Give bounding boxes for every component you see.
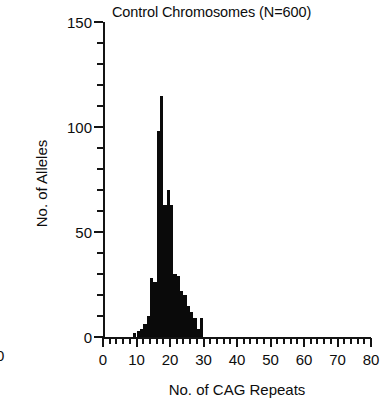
x-axis-minor-tick [176,338,178,344]
x-axis-tick-label: 50 [262,351,279,368]
neighbor-panel-tick-label: 0 [0,347,4,364]
x-axis-minor-tick [156,338,158,344]
x-axis-minor-tick [149,338,151,344]
x-axis-major-tick [370,338,372,347]
y-axis-tick-label: 0 [84,329,92,346]
x-axis-major-tick [270,338,272,347]
x-axis-minor-tick [209,338,211,344]
x-axis-major-tick [337,338,339,347]
y-axis-major-tick [94,21,103,23]
y-axis-label: No. of Alleles [33,99,50,269]
x-axis-label: No. of CAG Repeats [103,381,371,398]
x-axis-minor-tick [330,338,332,344]
x-axis-major-tick [236,338,238,347]
y-axis-tick-label: 50 [75,224,92,241]
x-axis-minor-tick [129,338,131,344]
x-axis-major-tick [136,338,138,347]
x-axis-minor-tick [249,338,251,344]
x-axis-tick-label: 10 [128,351,145,368]
x-axis-minor-tick [142,338,144,344]
x-axis-major-tick [303,338,305,347]
x-axis-minor-tick [109,338,111,344]
x-axis-minor-tick [122,338,124,344]
x-axis-minor-tick [162,338,164,344]
x-axis-minor-tick [182,338,184,344]
x-axis-minor-tick [363,338,365,344]
y-axis-major-tick [94,231,103,233]
x-axis-tick-label: 0 [99,351,107,368]
x-axis-minor-tick [290,338,292,344]
x-axis-minor-tick [343,338,345,344]
x-axis-minor-tick [243,338,245,344]
histogram-bar [200,318,203,337]
x-axis-minor-tick [276,338,278,344]
x-axis-minor-tick [310,338,312,344]
x-axis-minor-tick [216,338,218,344]
x-axis-minor-tick [223,338,225,344]
x-axis-minor-tick [316,338,318,344]
x-axis-minor-tick [196,338,198,344]
x-axis-major-tick [102,338,104,347]
x-axis-minor-tick [350,338,352,344]
y-axis-major-tick [94,126,103,128]
chart-title: Control Chromosomes (N=600) [112,4,382,20]
x-axis-minor-tick [256,338,258,344]
histogram-bars [103,22,371,338]
x-axis-tick-label: 40 [229,351,246,368]
y-axis-tick-label: 150 [67,14,92,31]
x-axis-major-tick [169,338,171,347]
x-axis-minor-tick [283,338,285,344]
x-axis-tick-label: 60 [296,351,313,368]
x-axis-minor-tick [189,338,191,344]
x-axis-tick-label: 80 [363,351,380,368]
x-axis-minor-tick [263,338,265,344]
x-axis-major-tick [203,338,205,347]
x-axis-minor-tick [323,338,325,344]
x-axis-minor-tick [357,338,359,344]
x-axis-tick-label: 70 [329,351,346,368]
x-axis-minor-tick [229,338,231,344]
y-axis-tick-label: 100 [67,119,92,136]
x-axis-minor-tick [296,338,298,344]
x-axis-tick-label: 20 [162,351,179,368]
x-axis-minor-tick [115,338,117,344]
x-axis-tick-label: 30 [195,351,212,368]
plot-area: 050100150 01020304050607080 [103,22,371,338]
